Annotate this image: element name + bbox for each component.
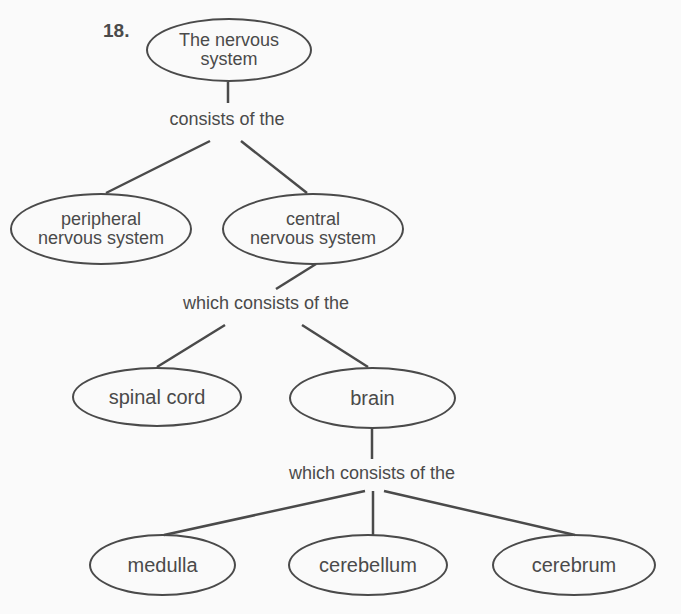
node-label: The nervous system <box>179 31 279 69</box>
node-label: cerebellum <box>319 554 417 577</box>
node-label: spinal cord <box>109 386 206 409</box>
link-label-which-consists-1: which consists of the <box>183 293 349 314</box>
node-cerebellum: cerebellum <box>288 534 448 596</box>
question-number: 18. <box>103 20 129 42</box>
node-label: medulla <box>127 554 197 577</box>
link-label-which-consists-2: which consists of the <box>289 463 455 484</box>
node-nervous-system: The nervous system <box>146 18 312 82</box>
node-label: central nervous system <box>250 210 376 248</box>
node-medulla: medulla <box>89 534 236 596</box>
node-brain: brain <box>289 367 456 429</box>
concept-map: 18. The nervous system consists of the p… <box>0 0 681 614</box>
node-central-nervous-system: central nervous system <box>222 193 404 265</box>
node-label: brain <box>350 387 394 410</box>
node-label: peripheral nervous system <box>38 210 164 248</box>
node-peripheral-nervous-system: peripheral nervous system <box>10 193 192 265</box>
node-spinal-cord: spinal cord <box>72 367 242 427</box>
node-label: cerebrum <box>532 554 616 577</box>
link-label-consists: consists of the <box>169 109 284 130</box>
node-cerebrum: cerebrum <box>492 534 656 596</box>
